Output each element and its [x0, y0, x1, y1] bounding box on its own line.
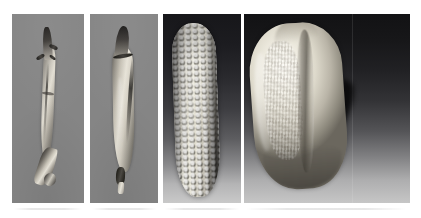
specimen-intermediate-ear [110, 27, 137, 193]
specimen-maize-ear [174, 23, 218, 197]
scan-artifact-segment [165, 208, 239, 210]
kernel-body [247, 20, 351, 192]
panel-maize-ear[interactable] [163, 14, 241, 203]
ear-shading [171, 23, 221, 198]
panel-maize-kernel[interactable] [244, 14, 410, 203]
specimen-teosinte-ear [39, 27, 58, 190]
scan-artifact-segment [246, 208, 406, 210]
panel-teosinte-ear-husked[interactable] [12, 14, 84, 203]
ear-cob [171, 23, 221, 198]
ear-stalk [118, 182, 125, 194]
panel-intermediate-ear[interactable] [90, 14, 158, 203]
scan-artifact-segment [14, 208, 82, 210]
scan-artifact-row [0, 205, 421, 214]
specimen-maize-kernel [252, 23, 345, 189]
kernel-underside-shading [263, 144, 344, 193]
panel-seam [352, 14, 353, 203]
kernel-crown [271, 20, 322, 52]
scan-artifact-segment [92, 208, 156, 210]
figure-plate [0, 0, 421, 218]
